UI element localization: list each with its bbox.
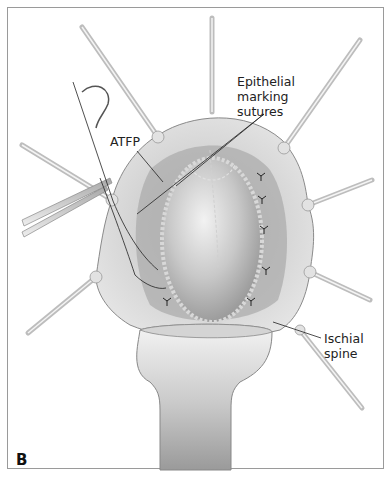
weighted-speculum <box>137 324 272 470</box>
label-line: marking <box>237 89 295 104</box>
label-line: Epithelial <box>237 74 295 89</box>
label-epithelial-marking-sutures: Epithelial marking sutures <box>237 74 295 119</box>
label-line: sutures <box>237 104 295 119</box>
label-atfp: ATFP <box>110 134 140 149</box>
panel-letter: B <box>16 451 27 469</box>
needle-holder <box>22 178 112 237</box>
label-line: spine <box>324 346 364 361</box>
surgical-illustration <box>0 0 391 480</box>
label-line: Ischial <box>324 331 364 346</box>
label-ischial-spine: Ischial spine <box>324 331 364 361</box>
